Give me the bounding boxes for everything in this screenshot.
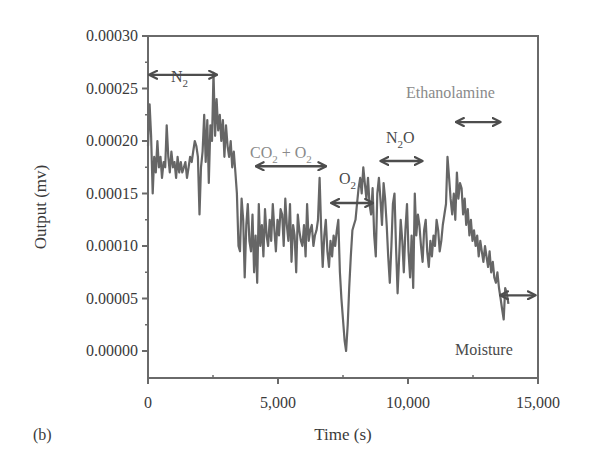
x-tick-label: 5,000 [260,394,296,411]
x-axis-title: Time (s) [314,425,371,444]
y-tick-label: 0.00030 [86,27,138,44]
y-tick-label: 0.00020 [86,132,138,149]
x-tick-label: 0 [144,394,152,411]
x-tick-label: 10,000 [386,394,430,411]
y-tick-label: 0.00005 [86,290,138,307]
annotation-n2o: N2O [386,129,415,150]
line-chart: 0.000000.000050.000100.000150.000200.000… [0,0,596,462]
data-line [148,73,508,351]
annotation-ethanolamine: Ethanolamine [406,84,495,101]
y-tick-label: 0.00025 [86,80,138,97]
annotation-moisture: Moisture [455,341,513,358]
annotation-co2-o2: CO2 + O2 [250,144,312,165]
y-axis: 0.000000.000050.000100.000150.000200.000… [86,27,148,359]
y-tick-label: 0.00010 [86,237,138,254]
y-tick-label: 0.00015 [86,185,138,202]
y-axis-title: Output (mv) [31,165,50,250]
y-tick-label: 0.00000 [86,342,138,359]
x-tick-label: 15,000 [516,394,560,411]
panel-label: (b) [33,426,52,444]
annotation-o2: O2 [339,170,356,191]
x-axis: 05,00010,00015,000 [144,375,560,411]
annotation-n2: N2 [171,68,188,89]
